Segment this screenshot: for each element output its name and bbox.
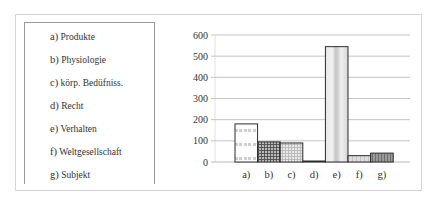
bar — [235, 124, 258, 162]
y-tick-label: 500 — [193, 51, 208, 62]
y-tick-label: 600 — [193, 30, 208, 41]
y-tick-label: 300 — [193, 93, 208, 104]
bar — [258, 142, 281, 162]
x-tick-label: f) — [356, 169, 363, 181]
bar — [371, 153, 394, 162]
bar — [280, 143, 303, 162]
x-tick-label: b) — [265, 169, 274, 181]
bar — [325, 47, 348, 162]
bar-chart: 0100200300400500600 a)b)c)d)e)f)g) — [0, 0, 438, 200]
y-tick-label: 200 — [193, 114, 208, 125]
x-tick-label: d) — [310, 169, 319, 181]
bar — [348, 156, 371, 162]
bars — [235, 47, 393, 162]
x-tick-label: a) — [242, 169, 251, 181]
x-tick-label: g) — [378, 169, 387, 181]
y-tick-label: 100 — [193, 135, 208, 146]
x-tick-label: e) — [333, 169, 342, 181]
y-tick-label: 400 — [193, 72, 208, 83]
x-axis-labels: a)b)c)d)e)f)g) — [242, 169, 387, 181]
bar — [303, 161, 326, 162]
y-axis-ticks: 0100200300400500600 — [193, 30, 208, 168]
x-tick-label: c) — [287, 169, 296, 181]
y-tick-label: 0 — [203, 157, 208, 168]
